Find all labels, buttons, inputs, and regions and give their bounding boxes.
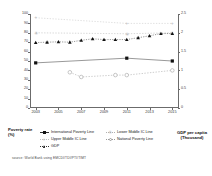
chart-legend: International Poverty Line✳Lower Middle … xyxy=(40,129,170,151)
legend-marker-triangle-icon xyxy=(40,144,49,149)
right-axis-tick-label: 2 xyxy=(181,31,197,35)
x-axis-tick-mark xyxy=(36,108,37,110)
x-axis-tick-label: 2005 xyxy=(46,111,70,115)
x-axis-tick-label: 2013 xyxy=(138,111,162,115)
legend-item[interactable]: National Poverty Line xyxy=(106,136,170,143)
right-axis-tick-label: 1 xyxy=(181,69,197,73)
x-axis-tick-label: 2015 xyxy=(160,111,184,115)
legend-marker-square-icon xyxy=(40,130,49,135)
x-axis-tick-mark xyxy=(58,108,59,110)
legend-item[interactable]: ✳Lower Middle IC Line xyxy=(106,129,170,136)
x-axis-tick-label: 2003 xyxy=(24,111,48,115)
legend-item[interactable]: GDP xyxy=(40,143,106,150)
left-axis-tick-label: 70 xyxy=(12,40,28,44)
chart-figure: 10090807060504030201002.521.510.50200320… xyxy=(0,0,212,176)
legend-label: National Poverty Line xyxy=(117,138,153,142)
left-axis-tick-label: 20 xyxy=(12,87,28,91)
legend-marker-circle-icon xyxy=(106,137,115,142)
right-axis-title: GDP per capita (Thousand) xyxy=(172,130,212,140)
left-axis-tick-label: 50 xyxy=(12,59,28,63)
x-axis-tick-mark xyxy=(127,108,128,110)
legend-label: Upper Middle IC Line xyxy=(51,138,87,142)
left-axis-tick-label: 10 xyxy=(12,97,28,101)
legend-label: Lower Middle IC Line xyxy=(117,131,153,135)
x-axis-tick-label: 2009 xyxy=(92,111,116,115)
legend-label: International Poverty Line xyxy=(51,131,94,135)
right-axis-tick-label: 2.5 xyxy=(181,12,197,16)
x-axis-tick-mark xyxy=(172,108,173,110)
right-axis-line xyxy=(178,14,179,108)
left-axis-tick-label: 0 xyxy=(12,106,28,110)
source-note: source: World Bank using EMCDI/TDI/PTI/T… xyxy=(12,157,86,160)
x-axis-tick-label: 2011 xyxy=(115,111,139,115)
x-axis-tick-mark xyxy=(150,108,151,110)
right-axis-tick-label: 1.5 xyxy=(181,50,197,54)
right-axis-tick-label: 0.5 xyxy=(181,87,197,91)
x-axis-tick-mark xyxy=(104,108,105,110)
right-axis-tick-label: 0 xyxy=(181,106,197,110)
left-axis-tick-label: 40 xyxy=(12,69,28,73)
left-axis-tick-label: 90 xyxy=(12,22,28,26)
x-axis-tick-mark xyxy=(81,108,82,110)
left-axis-tick-label: 30 xyxy=(12,78,28,82)
left-axis-tick-label: 100 xyxy=(12,12,28,16)
left-axis-tick-mark xyxy=(28,108,30,109)
legend-item[interactable]: +Upper Middle IC Line xyxy=(40,136,106,143)
legend-item[interactable]: International Poverty Line xyxy=(40,129,106,136)
left-axis-tick-label: 80 xyxy=(12,31,28,35)
left-axis-title: Poverty rate (%) xyxy=(8,127,34,137)
legend-label: GDP xyxy=(51,145,59,149)
legend-marker-star-icon: ✳ xyxy=(106,130,115,135)
right-axis-tick-mark xyxy=(178,108,180,109)
plot-area xyxy=(30,14,178,108)
left-axis-tick-label: 60 xyxy=(12,50,28,54)
legend-marker-plus-icon: + xyxy=(40,137,49,142)
x-axis-tick-label: 2007 xyxy=(69,111,93,115)
